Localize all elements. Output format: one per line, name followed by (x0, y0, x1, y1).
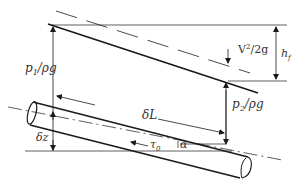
pipe-flow-diagram: p1/ρg V2/2g hf p2/ρg δL δz τ0 α (0, 0, 297, 179)
delta-L-label: δL (142, 108, 157, 122)
tau-label: τ0 (150, 138, 161, 153)
hydraulic-grade-line (48, 24, 258, 93)
velocity-head-label: V2/2g (237, 43, 268, 56)
pipe (25, 101, 251, 178)
alpha-label: α (180, 138, 188, 151)
p1-label: p1/ρg (25, 61, 57, 77)
delta-z-label: δz (36, 131, 49, 144)
head-loss-label: hf (281, 47, 292, 62)
delta-L-arrow-right (158, 119, 224, 133)
energy-grade-line (56, 11, 250, 73)
p2-label: p2/ρg (232, 97, 264, 113)
shear-stress-arrow (131, 142, 148, 146)
delta-L-arrow-left (57, 96, 95, 105)
